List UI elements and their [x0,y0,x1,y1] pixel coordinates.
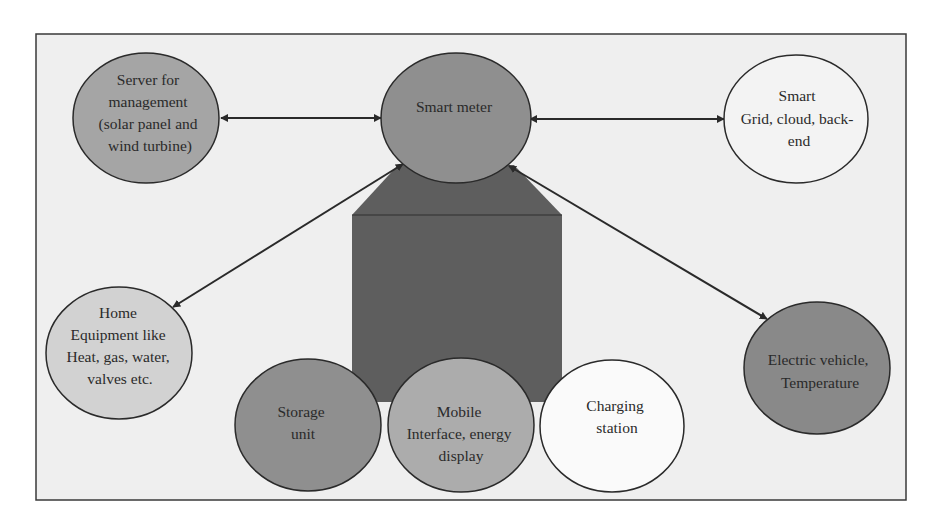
charging-label-2: station [596,419,638,436]
node-mobile-interface[interactable]: Mobile Interface, energy display [388,358,534,492]
ev-label-2: Temperature [781,374,859,391]
server-label-4: wind turbine) [108,137,192,155]
svg-text:Smart meter: Smart meter [416,98,493,115]
home-label-1: Home [99,304,137,321]
smart-home-diagram: Server for management (solar panel and w… [0,0,946,530]
server-label-1: Server for [117,71,180,88]
mobile-label-3: display [439,447,484,464]
node-home-equipment[interactable]: Home Equipment like Heat, gas, water, va… [46,287,192,419]
storage-label-1: Storage [277,403,324,420]
mobile-label-2: Interface, energy [407,425,512,442]
charging-label-1: Charging [586,397,644,414]
node-smart-grid[interactable]: Smart Grid, cloud, back- end [724,55,868,183]
home-label-4: valves etc. [87,370,152,387]
mobile-label-1: Mobile [437,403,482,420]
server-label-2: management [108,93,188,110]
smart-grid-label-2: Grid, cloud, back- [741,110,854,127]
server-label-3: (solar panel and [99,115,198,133]
node-storage-unit[interactable]: Storage unit [235,359,381,491]
node-server[interactable]: Server for management (solar panel and w… [73,53,219,183]
node-electric-vehicle[interactable]: Electric vehicle, Temperature [744,302,890,434]
storage-label-2: unit [291,425,316,442]
smart-grid-label-1: Smart [779,87,817,104]
home-label-3: Heat, gas, water, [67,348,170,365]
smart-meter-label: Smart meter [416,98,493,115]
node-smart-meter[interactable]: Smart meter [381,53,531,183]
home-label-2: Equipment like [70,326,165,343]
ev-label-1: Electric vehicle, [768,351,869,368]
smart-grid-label-3: end [788,132,811,149]
node-charging-station[interactable]: Charging station [540,360,684,492]
